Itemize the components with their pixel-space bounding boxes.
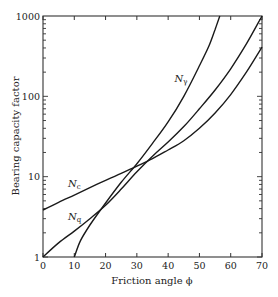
y-axis: 1101001000 (16, 11, 262, 263)
x-axis-title: Friction angle ϕ (111, 275, 192, 286)
x-tick-label: 40 (162, 260, 174, 271)
x-tick-label: 70 (256, 260, 268, 271)
curve-label-c: Nc (67, 178, 81, 191)
x-tick-label: 30 (131, 260, 143, 271)
curve-label-q: Nq (67, 211, 82, 224)
x-axis: 010203040506070 (40, 16, 268, 271)
y-tick-label: 1000 (16, 11, 40, 22)
x-tick-label: 20 (100, 260, 112, 271)
y-tick-label: 10 (28, 171, 40, 182)
y-tick-label: 1 (34, 252, 40, 263)
x-tick-label: 10 (68, 260, 80, 271)
x-tick-label: 0 (40, 260, 46, 271)
x-tick-label: 50 (193, 260, 205, 271)
x-tick-label: 60 (225, 260, 237, 271)
curve-γ (74, 16, 220, 257)
y-tick-label: 100 (22, 91, 40, 102)
curve-label-γ: Nγ (173, 73, 187, 86)
y-axis-title: Bearing capacity factor (10, 76, 21, 195)
bearing-capacity-chart: 010203040506070 1101001000 NcNqNγ Fricti… (0, 0, 278, 297)
curve-labels: NcNqNγ (67, 73, 187, 224)
